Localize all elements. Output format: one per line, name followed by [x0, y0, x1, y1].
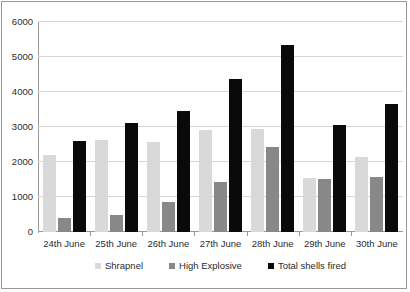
bar-group-bars — [38, 22, 90, 232]
bar-group — [90, 22, 142, 232]
bar-group-bars — [351, 22, 403, 232]
legend-item-high-explosive[interactable]: High Explosive — [169, 260, 242, 271]
x-axis-tick-label: 30th June — [356, 238, 398, 249]
x-axis-tick-label: 26th June — [147, 238, 189, 249]
bar-high-explosive[interactable] — [162, 202, 175, 232]
bar-shrapnel[interactable] — [147, 142, 160, 232]
bar-shrapnel[interactable] — [303, 178, 316, 232]
bar-high-explosive[interactable] — [110, 215, 123, 232]
x-axis-tick-label: 24th June — [43, 238, 85, 249]
x-axis-tick — [299, 232, 300, 236]
bar-high-explosive[interactable] — [214, 182, 227, 232]
bar-shrapnel[interactable] — [95, 140, 108, 232]
bar-group — [194, 22, 246, 232]
y-axis-tick-label: 0 — [28, 226, 33, 237]
plot-area: 0100020003000400050006000 — [38, 22, 403, 232]
bar-total-shells-fired[interactable] — [229, 79, 242, 232]
chart-legend: ShrapnelHigh ExplosiveTotal shells fired — [38, 260, 403, 271]
chart-frame: 0100020003000400050006000 24th June25th … — [1, 1, 407, 289]
x-axis-tick-label: 29th June — [304, 238, 346, 249]
x-axis-tick — [351, 232, 352, 236]
legend-label-high-explosive: High Explosive — [179, 260, 242, 271]
bar-high-explosive[interactable] — [370, 177, 383, 232]
legend-label-total-shells-fired: Total shells fired — [278, 260, 346, 271]
bar-group — [351, 22, 403, 232]
bar-group — [142, 22, 194, 232]
bar-total-shells-fired[interactable] — [177, 111, 190, 232]
bar-shrapnel[interactable] — [355, 157, 368, 232]
bar-shrapnel[interactable] — [199, 130, 212, 232]
bar-group — [38, 22, 90, 232]
y-axis-tick-label: 5000 — [12, 51, 33, 62]
bar-total-shells-fired[interactable] — [73, 141, 86, 232]
bar-group — [247, 22, 299, 232]
x-axis-tick — [142, 232, 143, 236]
bar-high-explosive[interactable] — [58, 218, 71, 232]
legend-item-shrapnel[interactable]: Shrapnel — [95, 260, 143, 271]
y-axis-tick-label: 3000 — [12, 121, 33, 132]
legend-label-shrapnel: Shrapnel — [105, 260, 143, 271]
y-axis-tick-label: 2000 — [12, 156, 33, 167]
legend-swatch-total-shells-fired — [268, 263, 274, 269]
bar-total-shells-fired[interactable] — [281, 45, 294, 232]
bar-group-bars — [299, 22, 351, 232]
bar-group-bars — [247, 22, 299, 232]
bar-high-explosive[interactable] — [266, 147, 279, 232]
bar-group-bars — [142, 22, 194, 232]
x-axis-tick — [247, 232, 248, 236]
legend-swatch-high-explosive — [169, 263, 175, 269]
y-axis-tick-label: 4000 — [12, 86, 33, 97]
bar-group-bars — [194, 22, 246, 232]
bar-group — [299, 22, 351, 232]
legend-swatch-shrapnel — [95, 263, 101, 269]
bar-total-shells-fired[interactable] — [125, 123, 138, 232]
bar-group-bars — [90, 22, 142, 232]
y-axis-tick-label: 6000 — [12, 16, 33, 27]
bar-high-explosive[interactable] — [318, 179, 331, 232]
y-axis-tick-label: 1000 — [12, 191, 33, 202]
x-axis-tick — [90, 232, 91, 236]
bar-shrapnel[interactable] — [251, 129, 264, 232]
x-axis-tick-label: 28th June — [252, 238, 294, 249]
bar-total-shells-fired[interactable] — [333, 125, 346, 232]
bar-total-shells-fired[interactable] — [385, 104, 398, 232]
x-axis-tick-label: 25th June — [95, 238, 137, 249]
x-axis-tick — [194, 232, 195, 236]
legend-item-total-shells-fired[interactable]: Total shells fired — [268, 260, 346, 271]
x-axis-tick-label: 27th June — [200, 238, 242, 249]
x-axis-labels: 24th June25th June26th June27th June28th… — [38, 238, 403, 254]
bar-shrapnel[interactable] — [43, 155, 56, 232]
